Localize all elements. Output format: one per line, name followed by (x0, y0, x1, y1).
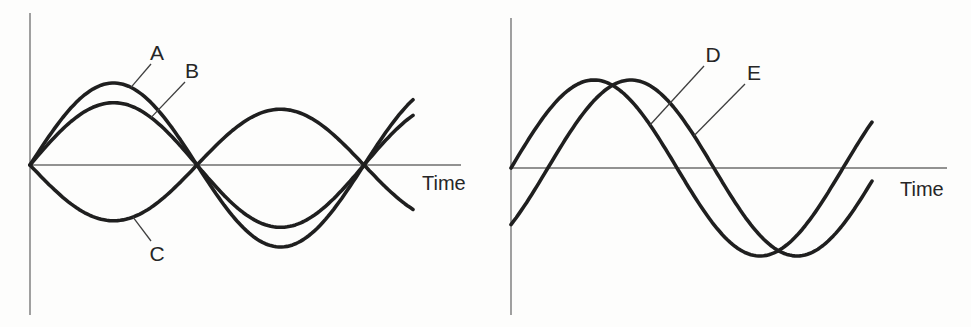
label-c-leader-line (133, 217, 151, 241)
label-b-leader-line (151, 82, 185, 118)
figure-canvas: A B C Time D E Time (0, 0, 971, 327)
left-wave-panel: A B C Time (30, 13, 466, 315)
wave-b-label: B (185, 59, 199, 82)
label-a-leader-line (131, 64, 151, 87)
wave-c-label: C (149, 242, 164, 265)
left-time-axis-label: Time (422, 172, 466, 194)
waveform-comparison-figure: A B C Time D E Time (0, 0, 971, 327)
wave-e-label: E (747, 61, 761, 84)
label-e-leader-line (694, 84, 745, 136)
right-time-axis-label: Time (900, 178, 944, 200)
label-d-leader-line (650, 66, 704, 125)
right-wave-panel: D E Time (511, 18, 947, 315)
wave-d-label: D (705, 43, 720, 66)
wave-a-label: A (150, 41, 164, 64)
